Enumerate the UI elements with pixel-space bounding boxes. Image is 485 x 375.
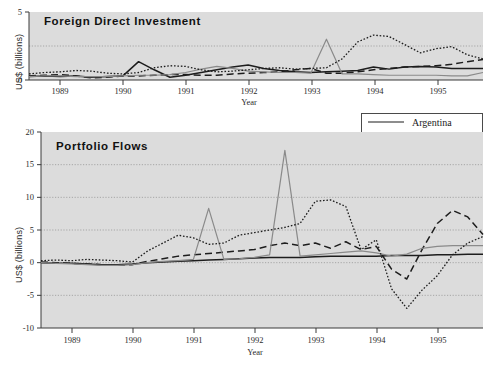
portfolio-xlabel-1989: 1989 [50,335,94,345]
fdi-xlabel-1993: 1993 [290,86,334,96]
portfolio-xlabel-1993: 1993 [294,335,338,345]
panel-portfolio: US$ (billions) Por [0,118,485,375]
portfolio-xlabel-1991: 1991 [172,335,216,345]
portfolio-ylabel-0: 0 [6,257,34,267]
fdi-xlabel-1992: 1992 [227,86,271,96]
portfolio-ylabel-5: 5 [6,225,34,235]
fdi-xlabel-1994: 1994 [353,86,397,96]
portfolio-xlabel-1992: 1992 [233,335,277,345]
fdi-xlabel-1990: 1990 [101,86,145,96]
portfolio-y-axis-title: US$ (billions) [14,227,24,283]
portfolio-xlabel-1994: 1994 [355,335,399,345]
fdi-xlabel-1995: 1995 [416,86,460,96]
portfolio-ylabel-20: 20 [6,127,34,137]
portfolio-ylabel-minus5: -5 [6,290,34,300]
fdi-ylabel-5: 5 [6,7,22,17]
portfolio-ylabel-minus10: -10 [6,323,34,333]
fdi-ylabel-0: 0 [6,75,22,85]
fdi-xlabel-1989: 1989 [38,86,82,96]
portfolio-panel-title: Portfolio Flows [56,140,148,152]
fdi-panel-title: Foreign Direct Investment [44,15,201,27]
portfolio-ylabel-15: 15 [6,159,34,169]
portfolio-xlabel-1990: 1990 [111,335,155,345]
portfolio-x-axis-title: Year [233,347,277,357]
figure-container: US$ (billions) Foreign Direct Investment [0,0,485,375]
fdi-xlabel-1991: 1991 [164,86,208,96]
fdi-x-axis-title: Year [227,97,271,107]
portfolio-xlabel-1995: 1995 [416,335,460,345]
panel-fdi: US$ (billions) Foreign Direct Investment [0,0,485,110]
portfolio-ylabel-10: 10 [6,192,34,202]
